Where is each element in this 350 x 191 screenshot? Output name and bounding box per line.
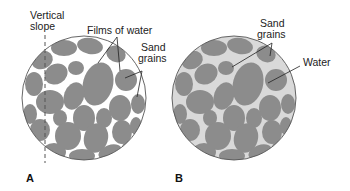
- sand-grains-a-label-line2: grains: [138, 53, 167, 64]
- panel-b-graphic: [172, 36, 300, 163]
- vertical-slope-label-line2: slope: [30, 21, 55, 32]
- panel-a-letter: A: [26, 172, 34, 184]
- panel-b-letter: B: [175, 172, 183, 184]
- sand-grains-b-label-line2: grains: [257, 29, 286, 40]
- films-of-water-label: Films of water: [87, 25, 152, 36]
- water-label: Water: [303, 57, 331, 68]
- panel-a-graphic: [22, 35, 146, 163]
- sand-water-diagram: Vertical slope Films of water Sand grain…: [0, 0, 350, 191]
